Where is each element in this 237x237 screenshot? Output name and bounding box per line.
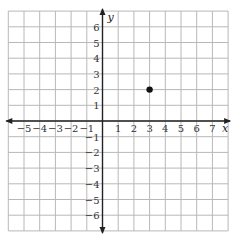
y-tick-label: 2 [93, 85, 99, 96]
x-tick-label: −5 [17, 123, 32, 134]
x-tick-label: 7 [209, 123, 215, 134]
y-tick-label: 6 [93, 22, 99, 33]
x-tick-label: −4 [32, 123, 47, 134]
y-tick-label: −4 [85, 179, 100, 190]
x-tick-label: 2 [131, 123, 137, 134]
y-tick-label: −6 [85, 210, 100, 221]
y-tick-label: −3 [85, 163, 100, 174]
x-tick-label: 3 [146, 123, 152, 134]
data-points [146, 86, 152, 92]
coordinate-plane: −5−4−3−2−11234567 654321−1−2−3−4−5−6 x y [0, 0, 237, 237]
x-axis-label: x [222, 122, 229, 135]
data-point [146, 86, 152, 92]
y-tick-label: 1 [93, 100, 99, 111]
y-tick-label: −5 [85, 195, 100, 206]
x-tick-label: 6 [194, 123, 200, 134]
y-tick-label: −2 [85, 147, 100, 158]
y-axis-label: y [107, 11, 115, 24]
x-tick-label: 4 [162, 123, 168, 134]
x-tick-label: −2 [64, 123, 79, 134]
x-tick-label: −3 [48, 123, 63, 134]
x-tick-label: 5 [178, 123, 184, 134]
y-tick-label: 5 [93, 38, 99, 49]
x-tick-labels: −5−4−3−2−11234567 [17, 123, 216, 134]
x-tick-label: 1 [115, 123, 121, 134]
y-tick-label: 3 [93, 69, 99, 80]
y-tick-label: 4 [93, 53, 99, 64]
y-tick-label: −1 [85, 132, 100, 143]
